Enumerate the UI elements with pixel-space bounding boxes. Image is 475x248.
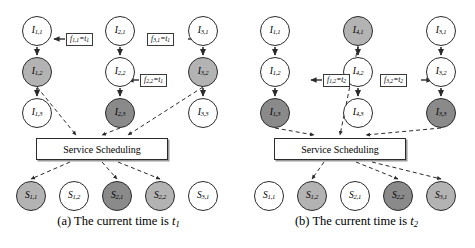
- node-label: I3,1: [198, 26, 208, 36]
- figure-root: I1,1I1,2I1,3I2,1I2,2I2,3I3,1I3,2I3,3S1,1…: [0, 0, 475, 248]
- node-label: I1,2: [32, 67, 42, 77]
- flow-label-f-3-1: f3,1=t1: [147, 33, 174, 46]
- instance-node-I-3-2[interactable]: I3,2: [426, 57, 456, 87]
- instance-node-I-4-3[interactable]: I4,3: [343, 98, 373, 128]
- node-label: I1,2: [270, 67, 280, 77]
- node-label: I3,3: [198, 108, 208, 118]
- flow-label-f-1-2: f1,2=t2: [323, 74, 350, 87]
- node-label: I4,1: [353, 26, 363, 36]
- node-label: I3,1: [436, 26, 446, 36]
- node-label: I1,1: [32, 26, 42, 36]
- panel-caption-b: (b) The current time is t2: [238, 214, 475, 229]
- instance-node-I-1-2[interactable]: I1,2: [22, 57, 52, 87]
- service-node-S-3-1[interactable]: S3,1: [426, 181, 456, 211]
- node-label: S2,2: [154, 191, 166, 201]
- caption-text: The current time is: [312, 214, 410, 228]
- service-scheduling-label: Service Scheduling: [63, 144, 140, 155]
- node-label: S1,2: [68, 191, 80, 201]
- service-node-S-1-2[interactable]: S1,2: [59, 181, 89, 211]
- node-label: S3,1: [435, 191, 447, 201]
- node-label: S1,1: [25, 191, 37, 201]
- flow-label-f-1-1: f1,1=t1: [66, 33, 93, 46]
- node-label: I1,3: [270, 108, 280, 118]
- node-label: S2,2: [392, 191, 404, 201]
- flow-label-f-3-2: f3,2=t2: [380, 74, 407, 87]
- node-label: I4,2: [353, 67, 363, 77]
- instance-node-I-1-3[interactable]: I1,3: [22, 98, 52, 128]
- instance-node-I-3-3[interactable]: I3,3: [426, 98, 456, 128]
- service-node-S-2-2[interactable]: S2,2: [145, 181, 175, 211]
- node-label: I4,3: [353, 108, 363, 118]
- panel-b: I1,1I1,2I1,3I4,1I4,2I4,3I3,1I3,2I3,3S1,1…: [238, 0, 475, 248]
- instance-node-I-3-3[interactable]: I3,3: [188, 98, 218, 128]
- service-node-S-2-1[interactable]: S2,1: [340, 181, 370, 211]
- node-label: S3,1: [197, 191, 209, 201]
- instance-node-I-4-1[interactable]: I4,1: [343, 16, 373, 46]
- node-label: I3,2: [198, 67, 208, 77]
- instance-node-I-2-2[interactable]: I2,2: [105, 57, 135, 87]
- panel-a: I1,1I1,2I1,3I2,1I2,2I2,3I3,1I3,2I3,3S1,1…: [0, 0, 237, 248]
- caption-prefix: (a): [57, 214, 74, 228]
- service-node-S-2-2[interactable]: S2,2: [383, 181, 413, 211]
- instance-node-I-1-1[interactable]: I1,1: [22, 16, 52, 46]
- instance-node-I-1-3[interactable]: I1,3: [260, 98, 290, 128]
- caption-text: The current time is: [74, 214, 172, 228]
- service-node-S-1-1[interactable]: S1,1: [254, 181, 284, 211]
- service-scheduling-box[interactable]: Service Scheduling: [274, 138, 406, 160]
- caption-prefix: (b): [295, 214, 312, 228]
- node-label: I2,2: [115, 67, 125, 77]
- node-label: S1,1: [263, 191, 275, 201]
- service-node-S-1-1[interactable]: S1,1: [16, 181, 46, 211]
- node-label: S2,1: [349, 191, 361, 201]
- node-label: I1,3: [32, 108, 42, 118]
- node-label: S2,1: [111, 191, 123, 201]
- instance-node-I-1-1[interactable]: I1,1: [260, 16, 290, 46]
- instance-node-I-3-1[interactable]: I3,1: [426, 16, 456, 46]
- node-label: I2,1: [115, 26, 125, 36]
- flow-label-f-2-2: f2,2=t1: [140, 74, 167, 87]
- node-label: I3,2: [436, 67, 446, 77]
- node-label: I3,3: [436, 108, 446, 118]
- service-node-S-2-1[interactable]: S2,1: [102, 181, 132, 211]
- service-scheduling-box[interactable]: Service Scheduling: [36, 138, 168, 160]
- instance-node-I-3-1[interactable]: I3,1: [188, 16, 218, 46]
- instance-node-I-2-1[interactable]: I2,1: [105, 16, 135, 46]
- service-node-S-1-2[interactable]: S1,2: [297, 181, 327, 211]
- instance-node-I-1-2[interactable]: I1,2: [260, 57, 290, 87]
- panel-caption-a: (a) The current time is t1: [0, 214, 237, 229]
- instance-node-I-2-3[interactable]: I2,3: [105, 98, 135, 128]
- service-scheduling-label: Service Scheduling: [301, 144, 378, 155]
- node-label: I1,1: [270, 26, 280, 36]
- node-label: I2,3: [115, 108, 125, 118]
- instance-node-I-3-2[interactable]: I3,2: [188, 57, 218, 87]
- service-node-S-3-1[interactable]: S3,1: [188, 181, 218, 211]
- node-label: S1,2: [306, 191, 318, 201]
